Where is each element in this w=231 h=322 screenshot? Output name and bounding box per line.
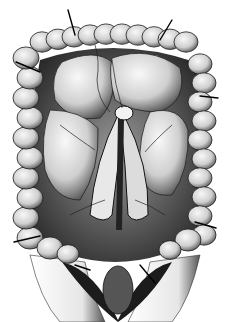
colon-haustrum [188, 168, 212, 188]
colon-haustrum [17, 67, 43, 89]
anatomical-illustration [0, 0, 231, 322]
colon-haustrum [13, 87, 39, 109]
colon-haustrum [159, 241, 181, 260]
colon-haustrum [188, 54, 212, 74]
duodenal-knot [115, 106, 133, 120]
colon-haustrum [13, 127, 39, 149]
colon-haustrum [13, 207, 39, 229]
colon-haustrum [174, 32, 198, 52]
small-intestine-upper-right [111, 53, 182, 112]
colon-haustrum [192, 149, 216, 169]
illustration-canvas [0, 0, 231, 322]
colon-haustrum [17, 107, 43, 129]
small-intestine-upper-left [54, 55, 114, 119]
colon-haustrum [188, 130, 212, 150]
colon-haustrum [188, 92, 212, 112]
colon-haustrum [192, 73, 216, 93]
colon-haustrum [13, 167, 39, 189]
colon-haustrum [192, 187, 216, 207]
colon-haustrum [17, 187, 43, 209]
colon-haustrum [57, 245, 79, 264]
rectum [103, 266, 133, 314]
colon-haustrum [192, 111, 216, 131]
colon-haustrum [17, 147, 43, 169]
